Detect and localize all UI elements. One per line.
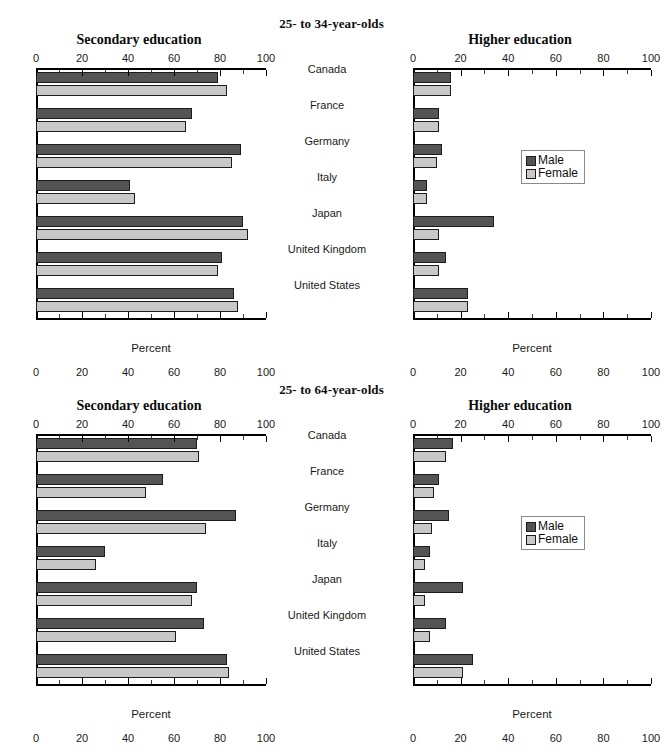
axis-tick-minor <box>243 70 244 74</box>
bar-group <box>413 654 651 690</box>
axis-tick <box>128 678 129 684</box>
axis-tick-label: 20 <box>76 418 88 430</box>
axis-tick-minor <box>151 436 152 440</box>
axis-tick <box>220 436 221 442</box>
axis-tick-label: 40 <box>122 732 134 744</box>
axis-tick-label: 0 <box>410 418 416 430</box>
bar-female <box>36 523 206 534</box>
country-label: Japan <box>268 207 386 219</box>
bar-male <box>36 510 236 521</box>
x-tick-labels-top: 020406080100 <box>36 52 266 66</box>
bar-group <box>413 180 651 216</box>
axis-tick <box>461 436 462 442</box>
bar-male <box>36 144 241 155</box>
axis-tick-label: 60 <box>168 732 180 744</box>
x-axis-caption: Percent <box>36 342 266 354</box>
legend: Male Female <box>521 150 585 184</box>
axis-tick <box>174 312 175 318</box>
country-label-column-bottom: CanadaFranceGermanyItalyJapanUnited King… <box>268 382 386 712</box>
x-tick-labels-bottom: 020406080100 <box>36 366 266 380</box>
bar-female <box>36 595 192 606</box>
axis-tick <box>603 436 604 442</box>
axis-tick-label: 80 <box>214 418 226 430</box>
bar-male <box>413 216 494 227</box>
axis-tick <box>82 70 83 76</box>
axis-tick <box>603 678 604 684</box>
bar-group <box>36 180 266 216</box>
axis-tick-label: 0 <box>410 366 416 378</box>
panel-title-higher: Higher education <box>385 32 655 48</box>
plot-area <box>36 434 266 686</box>
section-25-34: 25- to 34-year-olds Secondary education … <box>0 16 663 376</box>
bar-male <box>413 288 468 299</box>
axis-tick <box>651 678 652 684</box>
plot-area: Male Female <box>413 434 651 686</box>
panel-higher-25-64: Higher education 020406080100 Male Femal… <box>385 398 655 728</box>
axis-tick-label: 40 <box>502 418 514 430</box>
bar-female <box>36 451 199 462</box>
bar-male <box>36 72 218 83</box>
axis-tick-label: 60 <box>550 366 562 378</box>
axis-tick-minor <box>151 314 152 318</box>
axis-tick-minor <box>484 436 485 440</box>
x-tick-labels-bottom: 020406080100 <box>36 732 266 746</box>
axis-tick-label: 80 <box>214 52 226 64</box>
axis-tick-minor <box>437 680 438 684</box>
country-label: France <box>268 99 386 111</box>
bar-male <box>413 510 449 521</box>
country-label: Japan <box>268 573 386 585</box>
axis-tick-label: 40 <box>502 52 514 64</box>
bar-female <box>36 487 146 498</box>
axis-tick-label: 20 <box>454 418 466 430</box>
bar-group <box>413 438 651 474</box>
bar-female <box>413 595 425 606</box>
axis-tick-label: 0 <box>33 52 39 64</box>
bar-male <box>36 180 130 191</box>
panel-title-secondary: Secondary education <box>8 32 270 48</box>
bar-female <box>36 85 227 96</box>
axis-tick-label: 40 <box>122 418 134 430</box>
axis-tick-label: 80 <box>597 52 609 64</box>
axis-tick-minor <box>437 70 438 74</box>
axis-tick <box>174 436 175 442</box>
country-label: France <box>268 465 386 477</box>
bar-female <box>36 193 135 204</box>
axis-tick <box>508 436 509 442</box>
bar-male <box>36 474 163 485</box>
x-tick-labels-bottom: 020406080100 <box>413 732 651 746</box>
bar-female <box>36 631 176 642</box>
bar-female <box>413 301 468 312</box>
x-tick-labels-top: 020406080100 <box>36 418 266 432</box>
bar-group <box>36 288 266 324</box>
axis-tick-label: 0 <box>33 732 39 744</box>
axis-tick <box>266 312 267 318</box>
axis-tick-label: 80 <box>597 366 609 378</box>
axis-tick <box>413 312 414 318</box>
axis-tick-minor <box>197 314 198 318</box>
axis-tick <box>651 312 652 318</box>
axis-tick-minor <box>627 70 628 74</box>
bar-male <box>36 108 192 119</box>
section-25-64: 25- to 64-year-olds Secondary education … <box>0 382 663 742</box>
bar-female <box>413 229 439 240</box>
axis-tick-label: 100 <box>642 418 660 430</box>
axis-tick <box>36 70 37 76</box>
country-label: Canada <box>268 63 386 75</box>
legend: Male Female <box>521 516 585 550</box>
axis-tick-label: 100 <box>642 732 660 744</box>
axis-tick-minor <box>532 680 533 684</box>
bar-male <box>413 654 473 665</box>
panel-secondary-25-64: Secondary education 020406080100 0204060… <box>8 398 270 728</box>
x-tick-labels-top: 020406080100 <box>413 418 651 432</box>
bar-group <box>36 546 266 582</box>
legend-label-female: Female <box>538 167 578 180</box>
plot-area <box>36 68 266 320</box>
bar-male <box>36 618 204 629</box>
bar-female <box>36 157 232 168</box>
axis-tick <box>82 436 83 442</box>
axis-tick-label: 80 <box>214 366 226 378</box>
x-axis-caption: Percent <box>413 342 651 354</box>
axis-tick <box>266 70 267 76</box>
x-tick-labels-top: 020406080100 <box>413 52 651 66</box>
axis-tick <box>556 312 557 318</box>
